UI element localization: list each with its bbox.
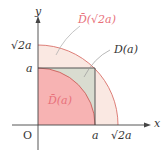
y-axis-label: y <box>35 6 41 17</box>
x-tick-a: a <box>92 130 99 141</box>
origin-label: O <box>23 130 32 141</box>
inner-region-label: D̄(a) <box>48 95 72 106</box>
x-axis-label: x <box>154 118 160 129</box>
x-tick-sqrt2a: √2a <box>111 130 132 141</box>
square-region-label: D(a) <box>114 44 138 55</box>
y-tick-sqrt2a: √2a <box>11 40 32 51</box>
outer-region-label: D̄(√2a) <box>78 14 116 25</box>
y-tick-a: a <box>26 63 33 74</box>
x-axis-arrow-icon <box>144 123 151 128</box>
